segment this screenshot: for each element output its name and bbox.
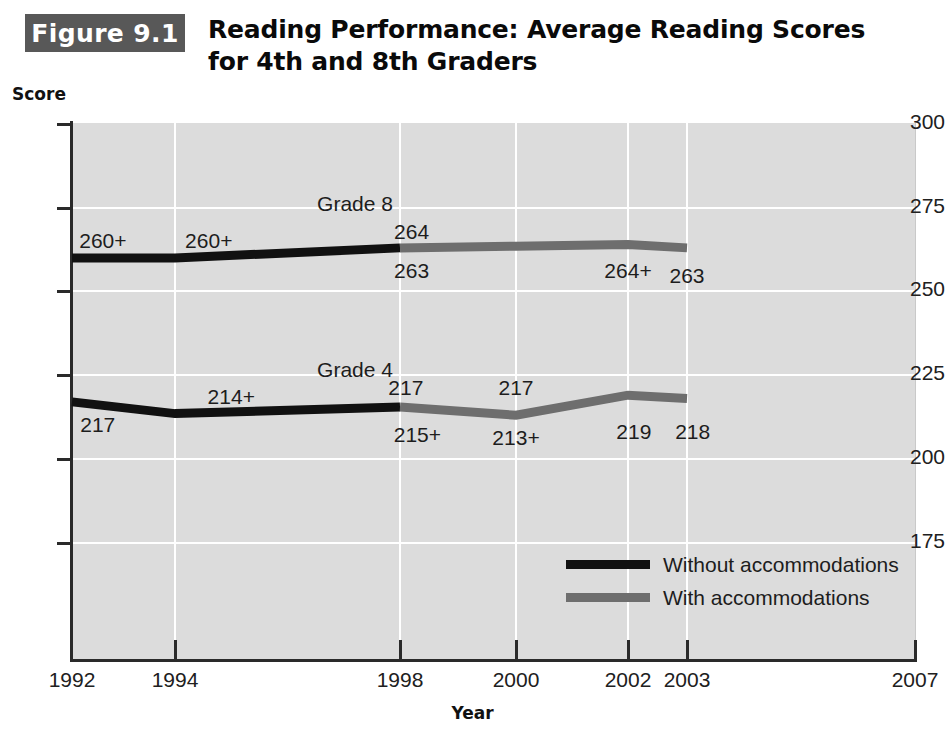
x-tick-label: 1998 — [377, 668, 424, 692]
x-tick-mark — [914, 640, 917, 662]
gridline-horizontal — [72, 207, 915, 209]
y-tick-label: 250 — [893, 277, 945, 301]
gridline-horizontal — [72, 458, 915, 460]
y-tick-mark — [57, 374, 73, 377]
y-tick-mark — [57, 290, 73, 293]
x-tick-mark — [515, 640, 518, 662]
y-tick-label: 225 — [893, 361, 945, 385]
legend-swatch — [566, 593, 650, 602]
gridline-vertical — [174, 123, 176, 660]
x-tick-label: 2000 — [493, 668, 540, 692]
x-tick-mark — [627, 640, 630, 662]
y-tick-label: 175 — [893, 529, 945, 553]
x-tick-label: 1994 — [152, 668, 199, 692]
figure-root: Figure 9.1 Reading Performance: Average … — [0, 0, 945, 745]
data-point-label: 218 — [675, 420, 710, 444]
y-tick-mark — [57, 123, 73, 126]
data-point-label: 214+ — [208, 385, 255, 409]
y-tick-mark — [57, 207, 73, 210]
x-axis-line — [70, 659, 917, 662]
data-point-label: 213+ — [492, 426, 539, 450]
gridline-horizontal — [72, 542, 915, 544]
x-tick-label: 2002 — [605, 668, 652, 692]
series-group-label: Grade 4 — [317, 358, 393, 382]
legend-label: Without accommodations — [663, 553, 899, 577]
data-point-label: 219 — [616, 420, 651, 444]
data-point-label: 217 — [80, 413, 115, 437]
x-tick-label: 2003 — [664, 668, 711, 692]
legend-item: Without accommodations — [566, 548, 899, 581]
x-tick-mark — [399, 640, 402, 662]
data-point-label: 260+ — [79, 229, 126, 253]
data-point-label: 260+ — [185, 229, 232, 253]
plot-container: 3002752502252001751992199419982000200220… — [0, 0, 945, 745]
data-point-label: 217 — [498, 376, 533, 400]
chart-legend: Without accommodationsWith accommodation… — [566, 548, 899, 614]
x-tick-label: 2007 — [892, 668, 939, 692]
x-tick-label: 1992 — [49, 668, 96, 692]
data-point-label: 264 — [394, 220, 429, 244]
legend-swatch — [566, 560, 650, 569]
y-tick-label: 300 — [893, 110, 945, 134]
data-point-label: 264+ — [604, 259, 651, 283]
y-tick-mark — [57, 542, 73, 545]
legend-label: With accommodations — [663, 586, 870, 610]
x-tick-mark — [174, 640, 177, 662]
data-point-label: 263 — [669, 264, 704, 288]
y-tick-mark — [57, 458, 73, 461]
legend-item: With accommodations — [566, 581, 899, 614]
gridline-horizontal — [72, 290, 915, 292]
series-group-label: Grade 8 — [317, 192, 393, 216]
data-point-label: 215+ — [394, 423, 441, 447]
gridline-horizontal — [72, 374, 915, 376]
data-point-label: 217 — [388, 376, 423, 400]
x-tick-mark — [686, 640, 689, 662]
y-axis-line — [70, 121, 73, 662]
y-tick-label: 275 — [893, 194, 945, 218]
y-tick-label: 200 — [893, 445, 945, 469]
data-point-label: 263 — [394, 259, 429, 283]
